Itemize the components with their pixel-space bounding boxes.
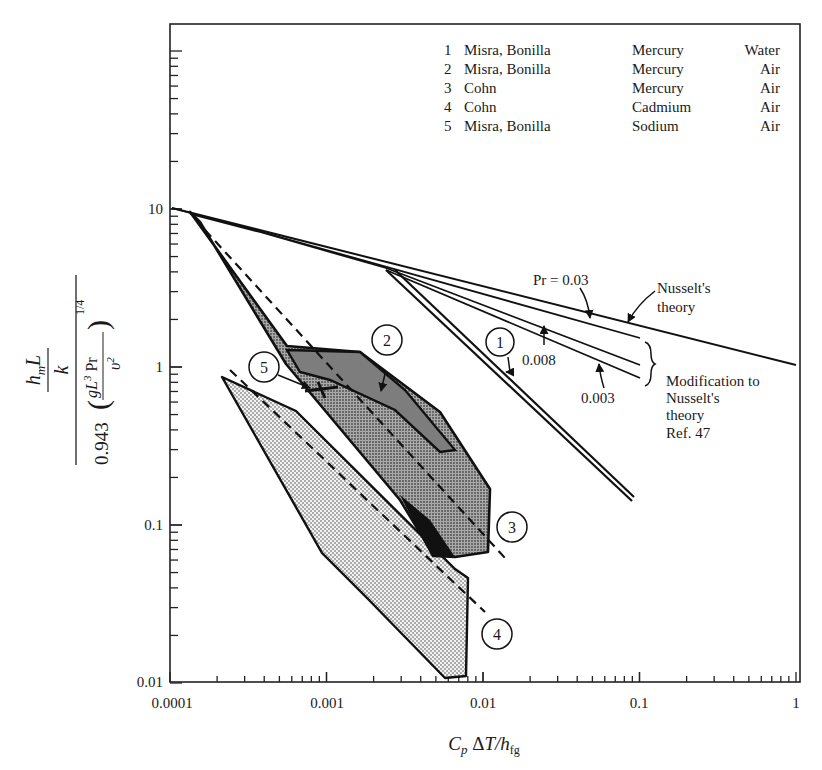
x-tick-label: 0.01 — [470, 695, 496, 711]
chart: 0.0001 0.001 0.01 0.1 1 0.01 0.1 1 10 Cp… — [0, 0, 822, 770]
circle-label-2: 2 — [372, 325, 402, 355]
svg-text:2: 2 — [383, 332, 391, 349]
y-tick-label: 0.1 — [144, 517, 163, 533]
svg-text:4: 4 — [493, 626, 501, 643]
legend-cell: Water — [745, 42, 780, 58]
legend-cell: Air — [760, 118, 780, 134]
legend-cell: 3 — [444, 80, 452, 96]
legend-cell: Air — [760, 99, 780, 115]
x-axis-title: Cp ΔT/hfg — [448, 733, 520, 757]
circle-label-3: 3 — [497, 512, 527, 542]
label-nusselt-1: Nusselt's — [657, 280, 711, 296]
circle-label-4: 4 — [482, 619, 512, 649]
label-mod-2: Nusselt's — [666, 390, 720, 406]
label-nusselt-2: theory — [657, 299, 696, 315]
svg-text:3: 3 — [508, 519, 516, 536]
legend-cell: Air — [760, 80, 780, 96]
legend-cell: Air — [760, 61, 780, 77]
y-axis-title: hmL k 0.943 ( gL3 Pr υ2 ) 1/4 — [22, 275, 123, 465]
legend-cell: Cohn — [464, 99, 497, 115]
svg-text:5: 5 — [260, 359, 268, 376]
legend-cell: Mercury — [632, 80, 684, 96]
legend-cell: 5 — [444, 118, 452, 134]
x-tick-label: 0.0001 — [151, 695, 192, 711]
legend-cell: Mercury — [632, 61, 684, 77]
circle-label-1: 1 — [486, 328, 514, 356]
label-pr-0.03: Pr = 0.03 — [533, 272, 589, 288]
legend-cell: 4 — [444, 99, 452, 115]
brace — [645, 342, 655, 386]
y-tick-label: 1 — [156, 359, 164, 375]
svg-text:gL3 Pr: gL3 Pr — [81, 357, 101, 398]
label-mod-4: Ref. 47 — [666, 425, 711, 441]
svg-text:1: 1 — [496, 334, 504, 351]
legend: 1Misra, BonillaMercuryWater2Misra, Bonil… — [444, 42, 780, 134]
svg-text:0.943: 0.943 — [91, 422, 112, 465]
legend-cell: Cadmium — [632, 99, 691, 115]
legend-cell: Misra, Bonilla — [464, 61, 551, 77]
svg-text:(: ( — [81, 400, 115, 410]
svg-text:k: k — [50, 364, 72, 374]
legend-cell: Cohn — [464, 80, 497, 96]
legend-cell: Mercury — [632, 42, 684, 58]
x-tick-label: 0.001 — [310, 695, 344, 711]
y-axis-ticks — [170, 51, 182, 683]
svg-text:hmL: hmL — [22, 355, 48, 386]
legend-cell: Misra, Bonilla — [464, 42, 551, 58]
x-tick-label: 0.1 — [630, 695, 649, 711]
arrow-nusselt — [628, 291, 655, 322]
pr-0.003-line — [386, 270, 640, 378]
label-0.008: 0.008 — [522, 352, 556, 368]
legend-cell: 2 — [444, 61, 452, 77]
arrow-0003 — [599, 364, 604, 388]
legend-cell: Misra, Bonilla — [464, 118, 551, 134]
y-tick-label: 10 — [148, 201, 163, 217]
svg-text:): ) — [81, 320, 115, 330]
legend-cell: Sodium — [632, 118, 679, 134]
label-mod-1: Modification to — [666, 373, 760, 389]
x-axis-ticks — [170, 672, 796, 682]
circle-label-5: 5 — [249, 352, 279, 382]
y-tick-label: 0.01 — [137, 674, 163, 690]
svg-text:υ2: υ2 — [104, 357, 123, 370]
legend-cell: 1 — [444, 42, 452, 58]
svg-text:1/4: 1/4 — [73, 300, 87, 315]
label-0.003: 0.003 — [581, 390, 615, 406]
label-mod-3: theory — [666, 407, 705, 423]
arrow-1 — [506, 357, 510, 372]
x-tick-label: 1 — [792, 695, 800, 711]
